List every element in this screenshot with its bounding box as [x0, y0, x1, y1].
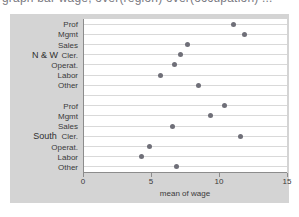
data-point — [242, 32, 247, 37]
category-label: Labor — [58, 152, 78, 161]
data-point — [196, 83, 201, 88]
x-tick-label: 5 — [149, 177, 153, 186]
category-label: Sales — [58, 122, 78, 131]
data-point — [222, 103, 227, 108]
category-label: Prof — [63, 20, 78, 29]
category-label: Labor — [58, 71, 78, 80]
data-points-layer — [83, 19, 287, 172]
category-label: Operat. — [51, 142, 78, 151]
group-label: N & W — [16, 50, 74, 60]
x-tick-label: 10 — [215, 177, 224, 186]
clipped-caption-strip: graph bar wage, over(region) over(occupa… — [0, 0, 299, 12]
data-point — [238, 134, 243, 139]
caption-text: graph bar wage, over(region) over(occupa… — [2, 0, 273, 5]
data-point — [139, 154, 144, 159]
stata-graph-region: ProfMgmtSalesCler.Operat.LaborOtherProfM… — [10, 14, 289, 203]
category-label: Sales — [58, 40, 78, 49]
x-tick-label: 15 — [283, 177, 292, 186]
data-point — [174, 164, 179, 169]
data-point — [147, 144, 152, 149]
plot-area — [83, 19, 287, 172]
data-point — [178, 52, 183, 57]
data-point — [185, 42, 190, 47]
data-point — [158, 73, 163, 78]
data-point — [170, 124, 175, 129]
category-label: Other — [58, 81, 78, 90]
x-tick-label: 0 — [81, 177, 85, 186]
data-point — [208, 113, 213, 118]
data-point — [172, 62, 177, 67]
category-label: Mgmt — [58, 30, 78, 39]
category-label: Prof — [63, 101, 78, 110]
category-label: Operat. — [51, 60, 78, 69]
category-label: Mgmt — [58, 111, 78, 120]
data-point — [231, 22, 236, 27]
x-axis-title: mean of wage — [83, 189, 287, 198]
y-axis-line — [83, 19, 84, 173]
group-label: South — [16, 131, 74, 141]
category-label: Other — [58, 162, 78, 171]
x-axis-line — [83, 172, 287, 173]
category-axis-labels: ProfMgmtSalesCler.Operat.LaborOtherProfM… — [10, 19, 81, 172]
